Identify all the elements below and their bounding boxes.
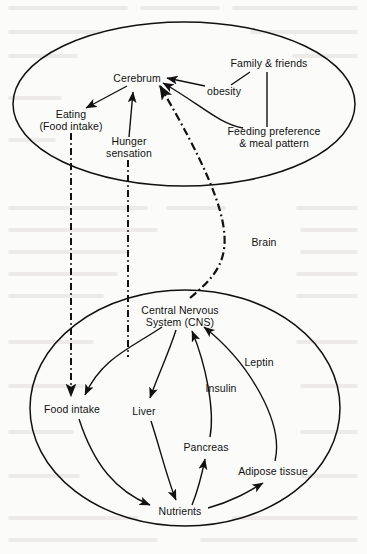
edge-label-insulin: Insulin bbox=[205, 383, 236, 395]
edge-cns-to-liver bbox=[150, 330, 176, 398]
scan-bleedthrough bbox=[8, 6, 358, 542]
upper-ellipse-brain-compartment bbox=[13, 22, 355, 186]
concept-diagram-canvas bbox=[0, 0, 367, 554]
node-feeding-preference: Feeding preference & meal pattern bbox=[228, 126, 321, 149]
node-nutrients: Nutrients bbox=[159, 506, 202, 518]
node-hunger-sensation: Hunger sensation bbox=[106, 136, 152, 159]
node-central-nervous-system: Central Nervous System (CNS) bbox=[141, 305, 218, 328]
node-cerebrum: Cerebrum bbox=[113, 73, 160, 85]
diagram-page: Cerebrum Eating (Food intake) Hunger sen… bbox=[0, 0, 367, 554]
edge-family-to-obesity bbox=[231, 72, 250, 85]
edge-food-intake-to-nutrients bbox=[79, 419, 150, 505]
edge-label-brain: Brain bbox=[251, 237, 276, 249]
edge-nutrients-to-adipose-tissue bbox=[208, 483, 263, 508]
edge-cerebrum-to-eating bbox=[86, 86, 127, 108]
node-eating: Eating (Food intake) bbox=[39, 109, 102, 132]
edge-obesity-to-cerebrum bbox=[167, 78, 205, 86]
edge-nutrients-to-pancreas bbox=[192, 459, 205, 505]
node-pancreas: Pancreas bbox=[183, 442, 228, 454]
edge-liver-to-nutrients bbox=[151, 421, 176, 500]
node-liver: Liver bbox=[132, 406, 155, 418]
node-obesity: obesity bbox=[207, 86, 241, 98]
node-food-intake: Food intake bbox=[44, 404, 100, 416]
edge-cns-to-cerebrum-dashdot-brain bbox=[160, 86, 225, 298]
node-family-and-friends: Family & friends bbox=[231, 58, 308, 70]
node-adipose-tissue: Adipose tissue bbox=[238, 466, 308, 478]
edge-cns-to-food-intake bbox=[85, 327, 162, 395]
edge-label-leptin: Leptin bbox=[244, 357, 273, 369]
edge-hunger-to-cerebrum bbox=[129, 92, 133, 137]
